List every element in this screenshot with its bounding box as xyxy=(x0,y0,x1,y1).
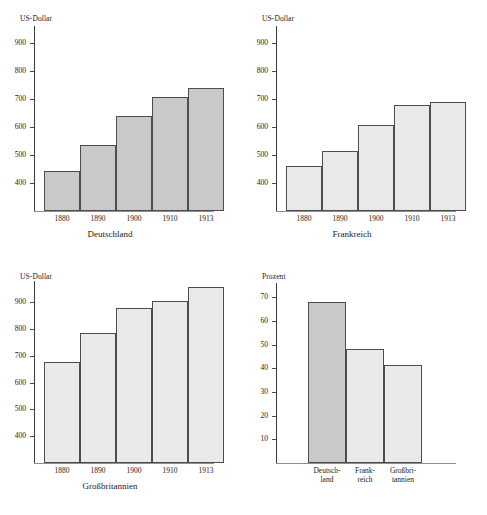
y-axis-tick xyxy=(30,356,34,357)
chart-panel-grossbritannien: US-Dollar4005006007008009001880189019001… xyxy=(0,258,243,515)
bar-deutschland-0 xyxy=(44,171,80,211)
y-axis-tick-label: 800 xyxy=(244,66,268,75)
y-axis-tick xyxy=(30,43,34,44)
x-axis-line xyxy=(276,463,456,464)
y-axis-tick-label: 700 xyxy=(2,94,26,103)
y-axis-tick xyxy=(30,329,34,330)
y-axis-unit-label: US-Dollar xyxy=(20,14,52,23)
bar-grossbritannien-4 xyxy=(188,287,224,463)
bar-frankreich-0 xyxy=(286,166,322,211)
y-axis-line xyxy=(34,281,35,463)
y-axis-line xyxy=(276,283,277,463)
y-axis-tick xyxy=(30,302,34,303)
chart-title: Deutschland xyxy=(10,229,210,239)
y-axis-unit-label: Prozent xyxy=(262,272,286,281)
x-category-line-2: tannien xyxy=(378,475,428,484)
y-axis-tick-label: 10 xyxy=(244,434,268,443)
y-axis-line xyxy=(34,26,35,211)
bar-grossbritannien-1 xyxy=(80,333,116,463)
chart-title: Großbritannien xyxy=(10,481,210,491)
y-axis-tick xyxy=(30,436,34,437)
bar-frankreich-2 xyxy=(358,125,394,211)
bar-grossbritannien-2 xyxy=(116,308,152,463)
y-axis-tick xyxy=(272,392,276,393)
y-axis-tick xyxy=(272,127,276,128)
x-axis-line xyxy=(34,211,214,212)
y-axis-tick-label: 500 xyxy=(2,150,26,159)
bar-deutschland-2 xyxy=(116,116,152,211)
y-axis-tick xyxy=(272,439,276,440)
y-axis-tick xyxy=(272,416,276,417)
chart-panel-deutschland: US-Dollar4005006007008009001880189019001… xyxy=(0,0,243,257)
x-axis-category-label: 1913 xyxy=(182,466,230,475)
y-axis-tick xyxy=(30,183,34,184)
y-axis-tick xyxy=(272,43,276,44)
y-axis-tick xyxy=(30,71,34,72)
y-axis-tick-label: 700 xyxy=(244,94,268,103)
y-axis-tick-label: 800 xyxy=(2,66,26,75)
chart-title: Frankreich xyxy=(252,229,452,239)
y-axis-unit-label: US-Dollar xyxy=(20,272,52,281)
y-axis-tick-label: 700 xyxy=(2,351,26,360)
chart-panel-prozent: Prozent10203040506070Deutsch-landFrank-r… xyxy=(244,258,487,515)
y-axis-tick-label: 70 xyxy=(244,292,268,301)
bar-frankreich-3 xyxy=(394,105,430,211)
y-axis-tick xyxy=(272,297,276,298)
bar-deutschland-1 xyxy=(80,145,116,211)
y-axis-tick-label: 400 xyxy=(2,178,26,187)
y-axis-tick xyxy=(30,127,34,128)
y-axis-tick xyxy=(272,71,276,72)
x-axis-category-label: Großbri-tannien xyxy=(378,466,428,484)
y-axis-tick-label: 900 xyxy=(2,38,26,47)
y-axis-tick-label: 900 xyxy=(244,38,268,47)
y-axis-tick xyxy=(272,183,276,184)
bar-deutschland-4 xyxy=(188,88,224,211)
y-axis-tick xyxy=(272,99,276,100)
chart-panel-frankreich: US-Dollar4005006007008009001880189019001… xyxy=(244,0,487,257)
bar-grossbritannien-3 xyxy=(152,301,188,463)
y-axis-line xyxy=(276,26,277,211)
y-axis-tick xyxy=(272,345,276,346)
y-axis-tick-label: 600 xyxy=(244,122,268,131)
bar-prozent-1 xyxy=(346,349,384,463)
bar-grossbritannien-0 xyxy=(44,362,80,463)
y-axis-tick-label: 600 xyxy=(2,378,26,387)
y-axis-tick-label: 400 xyxy=(2,431,26,440)
y-axis-tick-label: 800 xyxy=(2,324,26,333)
bar-prozent-0 xyxy=(308,302,346,463)
y-axis-tick-label: 500 xyxy=(2,404,26,413)
y-axis-tick xyxy=(272,368,276,369)
bar-deutschland-3 xyxy=(152,97,188,211)
y-axis-tick-label: 20 xyxy=(244,411,268,420)
x-axis-line xyxy=(276,211,456,212)
y-axis-tick-label: 900 xyxy=(2,297,26,306)
y-axis-tick-label: 400 xyxy=(244,178,268,187)
bar-prozent-2 xyxy=(384,365,422,463)
y-axis-unit-label: US-Dollar xyxy=(262,14,294,23)
y-axis-tick xyxy=(272,321,276,322)
bar-frankreich-4 xyxy=(430,102,466,211)
y-axis-tick-label: 40 xyxy=(244,363,268,372)
y-axis-tick-label: 500 xyxy=(244,150,268,159)
x-category-line-1: Frank- xyxy=(355,466,375,475)
x-axis-category-label: 1913 xyxy=(424,214,472,223)
y-axis-tick-label: 600 xyxy=(2,122,26,131)
x-category-line-1: Deutsch- xyxy=(313,466,340,475)
y-axis-tick-label: 60 xyxy=(244,316,268,325)
y-axis-tick-label: 50 xyxy=(244,340,268,349)
figure-sheet: US-Dollar4005006007008009001880189019001… xyxy=(0,0,487,515)
y-axis-tick xyxy=(30,383,34,384)
y-axis-tick xyxy=(272,155,276,156)
y-axis-tick xyxy=(30,99,34,100)
x-axis-line xyxy=(34,463,214,464)
y-axis-tick xyxy=(30,409,34,410)
bar-frankreich-1 xyxy=(322,151,358,211)
x-category-line-1: Großbri- xyxy=(390,466,416,475)
y-axis-tick xyxy=(30,155,34,156)
y-axis-tick-label: 30 xyxy=(244,387,268,396)
x-axis-category-label: 1913 xyxy=(182,214,230,223)
